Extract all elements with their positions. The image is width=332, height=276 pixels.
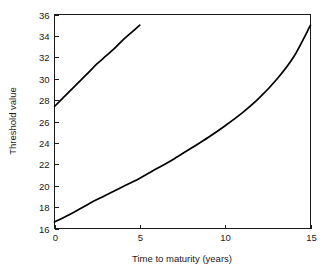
x-tick-label: 0 <box>53 232 58 243</box>
threshold-value-line-chart: 1618202224262830323436 051015 Time to ma… <box>0 0 332 276</box>
y-tick-label: 34 <box>39 31 50 42</box>
y-axis-title: Threshold value <box>7 87 18 155</box>
x-axis-title: Time to maturity (years) <box>132 253 232 264</box>
y-tick-label: 32 <box>39 52 50 63</box>
x-tick-label: 10 <box>220 232 231 243</box>
y-tick-label: 26 <box>39 117 50 128</box>
y-tick-label: 16 <box>39 224 50 235</box>
y-tick-label: 36 <box>39 10 50 21</box>
y-tick-label: 18 <box>39 202 50 213</box>
chart-background <box>0 0 332 276</box>
y-tick-label: 30 <box>39 74 50 85</box>
chart-figure: 1618202224262830323436 051015 Time to ma… <box>0 0 332 276</box>
x-tick-label: 5 <box>138 232 143 243</box>
y-tick-label: 22 <box>39 159 50 170</box>
y-tick-label: 20 <box>39 181 50 192</box>
y-tick-label: 24 <box>39 138 50 149</box>
x-tick-label: 15 <box>306 232 317 243</box>
y-tick-label: 28 <box>39 95 50 106</box>
